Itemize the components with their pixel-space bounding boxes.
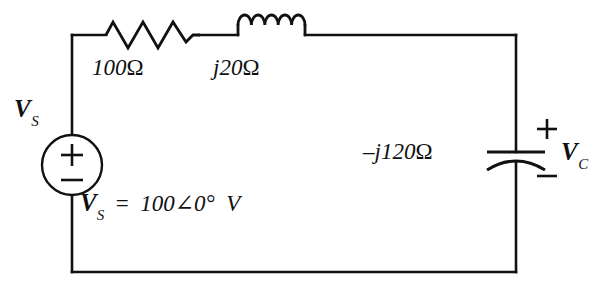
capacitor-voltage-label: VC [561,139,588,169]
equation-lhs: V [80,189,97,216]
equation-angle-symbol: ∠ [175,191,194,216]
source-voltage-subscript: S [31,113,39,129]
inductor-value-label: j20Ω [213,56,259,79]
inductor-unit: Ω [242,55,259,80]
equation-spacer-2 [129,191,141,216]
capacitor-voltage-subscript: C [578,156,588,172]
inductor-symbol [238,15,305,35]
inductor-value: j20 [213,55,242,80]
equation-lhs-subscript: S [97,207,105,223]
schematic-canvas [0,0,614,298]
resistor-value-label: 100Ω [92,56,144,79]
equation-phase: 0° [194,191,215,216]
capacitor-value-label: –j120Ω [363,140,432,163]
resistor-value: 100 [92,55,127,80]
source-voltage-label: VS [14,96,38,126]
resistor-unit: Ω [127,55,144,80]
capacitor-unit: Ω [415,139,432,164]
equation-unit: V [226,191,240,216]
equation-spacer-1 [104,191,116,216]
source-voltage-equation: VS = 100∠0° V [80,190,240,220]
equation-operator: = [116,191,129,216]
resistor-symbol [106,22,200,48]
source-voltage-letter: V [14,95,31,122]
equation-magnitude: 100 [140,191,175,216]
capacitor-value: –j120 [363,139,415,164]
voltage-source-symbol [42,135,102,195]
circuit-diagram: VS 100Ω j20Ω –j120Ω VC VS = 100∠0° V [0,0,614,298]
equation-spacer-3 [215,191,227,216]
capacitor-voltage-letter: V [561,138,578,165]
